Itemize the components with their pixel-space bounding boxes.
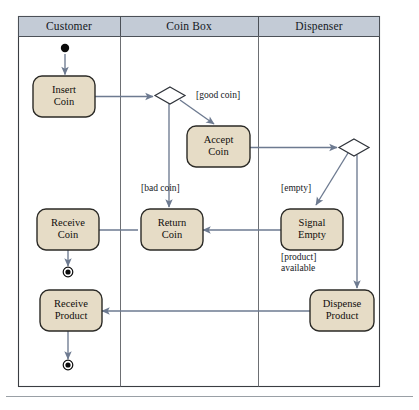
activity-return-coin	[141, 209, 203, 250]
activity-insert-coin	[33, 76, 95, 117]
initial-node	[61, 44, 69, 52]
lane-header-coin-box: Coin Box	[120, 20, 258, 33]
activity-diagram-canvas: Customer Coin Box Dispenser Insert Coin …	[0, 0, 419, 410]
final-node-product	[63, 360, 73, 370]
activity-dispense-product	[310, 290, 374, 331]
activity-receive-coin	[37, 209, 99, 250]
activity-receive-product	[40, 290, 102, 331]
lane-header-dispenser: Dispenser	[258, 20, 380, 33]
diagram-vector-layer	[0, 0, 419, 410]
activity-signal-empty	[281, 209, 343, 250]
activity-accept-coin	[187, 126, 250, 167]
final-node-coin	[63, 267, 73, 277]
lane-header-customer: Customer	[18, 20, 120, 33]
